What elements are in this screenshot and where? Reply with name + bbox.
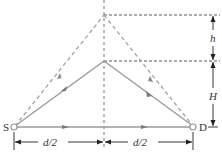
source-label: S bbox=[3, 121, 9, 133]
left-half-label: d/2 bbox=[43, 136, 58, 148]
dimension-left-half: d/2 bbox=[15, 136, 103, 148]
dashed-arrow-down-icon bbox=[148, 76, 153, 82]
h-label: h bbox=[210, 32, 216, 44]
dashed-arrow-up-icon bbox=[57, 73, 62, 79]
solid-arrow-up-icon bbox=[61, 86, 67, 91]
diagram-canvas: S D d/2 d/2 h H bbox=[0, 0, 222, 156]
H-label: H bbox=[208, 90, 218, 102]
dimension-right-half: d/2 bbox=[105, 136, 192, 148]
detector-node-icon bbox=[190, 124, 196, 130]
detector-label: D bbox=[199, 121, 207, 133]
dimension-h: h bbox=[210, 16, 216, 60]
right-half-label: d/2 bbox=[133, 136, 148, 148]
source-node-icon bbox=[11, 124, 17, 130]
direct-arrow-left-icon bbox=[62, 125, 69, 129]
direct-arrow-right-icon bbox=[141, 125, 148, 129]
dimension-H: H bbox=[208, 62, 218, 127]
solid-arrow-down-icon bbox=[146, 91, 152, 97]
